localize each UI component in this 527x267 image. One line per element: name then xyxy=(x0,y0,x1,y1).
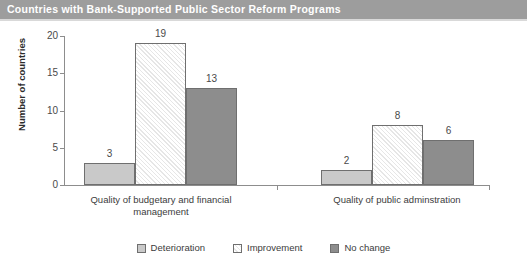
x-category-label-budgetary: Quality of budgetary and financial manag… xyxy=(76,194,246,218)
legend-item-improvement[interactable]: Improvement xyxy=(233,243,302,253)
chart-legend: Deterioration Improvement No change xyxy=(0,243,527,253)
title-bar: Countries with Bank-Supported Public Sec… xyxy=(0,0,527,19)
bar-deterioration-budgetary[interactable] xyxy=(84,163,135,185)
plot-area: 20 15 10 5 0 Number of countries 3 19 13 xyxy=(0,21,527,267)
bars-layer: 3 19 13 2 8 6 xyxy=(0,21,527,185)
bar-improvement-budgetary[interactable] xyxy=(135,43,186,185)
bar-value-2: 2 xyxy=(321,156,372,166)
legend-item-deterioration[interactable]: Deterioration xyxy=(137,243,205,253)
bar-value-3: 3 xyxy=(84,149,135,159)
legend-label-nochange: No change xyxy=(344,243,390,253)
bar-deterioration-administration[interactable] xyxy=(321,170,372,185)
bar-value-6: 6 xyxy=(423,126,474,136)
legend-label-deterioration: Deterioration xyxy=(151,243,205,253)
legend-swatch-nochange-icon xyxy=(330,244,339,253)
legend-label-improvement: Improvement xyxy=(247,243,302,253)
bar-value-13: 13 xyxy=(186,74,237,84)
x-category-label-administration: Quality of public adminstration xyxy=(312,194,482,206)
legend-swatch-improvement-icon xyxy=(233,244,242,253)
x-tick-mark-right xyxy=(489,186,490,190)
bar-value-8: 8 xyxy=(372,111,423,121)
x-category-label-administration-line1: Quality of public adminstration xyxy=(312,194,482,206)
x-tick-mark-center xyxy=(277,186,278,190)
bar-nochange-budgetary[interactable] xyxy=(186,88,237,185)
legend-swatch-deterioration-icon xyxy=(137,244,146,253)
chart-figure: Countries with Bank-Supported Public Sec… xyxy=(0,0,527,267)
legend-item-nochange[interactable]: No change xyxy=(330,243,390,253)
bar-improvement-administration[interactable] xyxy=(372,125,423,185)
bar-nochange-administration[interactable] xyxy=(423,140,474,185)
x-category-label-budgetary-line2: management xyxy=(76,206,246,218)
chart-title: Countries with Bank-Supported Public Sec… xyxy=(7,3,341,15)
bar-value-19: 19 xyxy=(135,29,186,39)
x-category-label-budgetary-line1: Quality of budgetary and financial xyxy=(76,194,246,206)
